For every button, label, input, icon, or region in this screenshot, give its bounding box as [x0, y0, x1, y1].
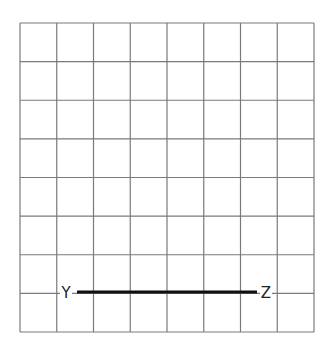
label-z: Z [261, 284, 271, 302]
grid-diagram: Y Z [0, 0, 330, 344]
label-y: Y [60, 284, 71, 302]
